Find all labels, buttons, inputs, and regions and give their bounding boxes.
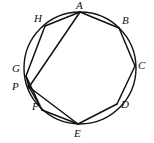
vertex-label-D: D: [121, 99, 129, 110]
vertex-label-C: C: [138, 60, 145, 71]
vertex-label-F: F: [32, 101, 39, 112]
vertex-label-P: P: [12, 81, 19, 92]
vertex-label-G: G: [12, 63, 20, 74]
vertex-point-P: [27, 85, 31, 89]
vertex-label-E: E: [74, 128, 81, 139]
edge-A-B: [80, 12, 119, 28]
geometry-figure: ABCDEFGHP: [0, 0, 154, 143]
edge-E-F: [42, 110, 78, 124]
vertex-label-H: H: [34, 13, 42, 24]
vertex-label-A: A: [76, 0, 83, 11]
figure-canvas: [0, 0, 154, 143]
vertex-points-layer: [27, 85, 31, 89]
vertex-label-B: B: [122, 15, 129, 26]
